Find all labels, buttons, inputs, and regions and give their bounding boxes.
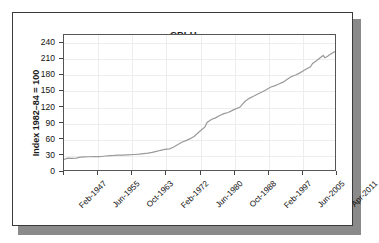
- x-tick-mark: [63, 171, 64, 175]
- y-tick-0: 0: [50, 166, 63, 176]
- y-tick-180: 180: [41, 69, 63, 79]
- y-tick-60: 60: [46, 134, 63, 144]
- y-tick-210: 210: [41, 53, 63, 63]
- cpi-line-path: [64, 52, 335, 160]
- y-tick-label: 30: [46, 150, 59, 160]
- y-tick-label: 0: [50, 166, 59, 176]
- x-tick-mark: [97, 171, 98, 175]
- x-tick-label: Feb-1997: [282, 179, 313, 210]
- x-tick-label: Oct-1963: [145, 179, 175, 209]
- y-tick-120: 120: [41, 102, 63, 112]
- x-tick-mark: [234, 171, 235, 175]
- y-tick-label: 90: [46, 118, 59, 128]
- y-tick-90: 90: [46, 118, 63, 128]
- x-tick-mark: [302, 171, 303, 175]
- chart-card: CPI-U Index 1982–84 = 100 03060901201501…: [12, 12, 353, 226]
- x-tick-mark: [200, 171, 201, 175]
- y-tick-label: 120: [41, 102, 59, 112]
- x-tick-label: Jun-1980: [214, 179, 245, 210]
- x-tick-label: Jun-1955: [111, 179, 142, 210]
- y-tick-label: 180: [41, 69, 59, 79]
- x-tick-label: Oct-1988: [247, 179, 277, 209]
- y-tick-label: 60: [46, 134, 59, 144]
- x-tick-mark: [131, 171, 132, 175]
- y-tick-label: 150: [41, 85, 59, 95]
- screenshot-root: CPI-U Index 1982–84 = 100 03060901201501…: [0, 0, 379, 243]
- x-axis-labels: Feb-1947Jun-1955Oct-1963Feb-1972Jun-1980…: [13, 177, 354, 239]
- y-tick-30: 30: [46, 150, 63, 160]
- x-tick-label: Feb-1972: [180, 179, 211, 210]
- x-tick-mark: [165, 171, 166, 175]
- plot-area: [63, 34, 336, 171]
- cpi-line-series: [64, 35, 335, 171]
- y-axis-ticks: 0306090120150180210240: [13, 34, 63, 171]
- y-tick-240: 240: [41, 37, 63, 47]
- x-tick-mark: [268, 171, 269, 175]
- y-tick-label: 210: [41, 53, 59, 63]
- x-tick-mark: [336, 171, 337, 175]
- x-tick-label: Feb-1947: [77, 179, 108, 210]
- y-tick-label: 240: [41, 37, 59, 47]
- x-tick-label: Jun-2005: [316, 179, 347, 210]
- y-tick-150: 150: [41, 85, 63, 95]
